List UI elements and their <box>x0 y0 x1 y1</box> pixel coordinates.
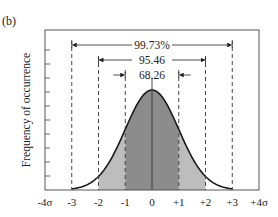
x-tick-label: -1 <box>121 196 130 208</box>
x-tick-label: -4σ <box>37 196 52 208</box>
normal-distribution-chart: -4σ-3-2-10+1+2+3+4σ99.73%95.4668.26 <box>0 0 278 217</box>
range-percentage-label: 68.26 <box>139 69 165 81</box>
x-tick-label: 0 <box>149 196 155 208</box>
x-tick-label: -2 <box>94 196 103 208</box>
x-tick-label: +3 <box>226 196 238 208</box>
range-percentage-label: 99.73% <box>134 39 170 51</box>
x-tick-label: -3 <box>67 196 77 208</box>
x-tick-label: +4σ <box>250 196 268 208</box>
range-percentage-label: 95.46 <box>139 54 165 66</box>
x-tick-label: +1 <box>173 196 185 208</box>
x-tick-label: +2 <box>200 196 212 208</box>
